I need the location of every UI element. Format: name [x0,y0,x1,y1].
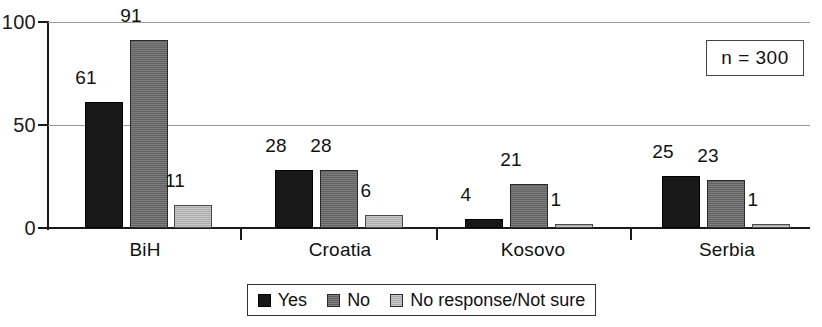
bar-kosovo-yes [465,219,503,228]
y-axis-label-0: 0 [0,218,36,238]
bar-serbia-nores [752,224,790,228]
value-kosovo-yes: 4 [445,185,487,204]
value-bih-yes: 61 [65,68,107,87]
group-tick-2 [436,229,438,240]
legend-item-no[interactable]: No [327,291,370,309]
y-axis-label-50: 50 [0,115,36,135]
x-axis-label-bih: BiH [105,240,185,260]
bar-bih-nores [174,205,212,228]
value-croatia-yes: 28 [255,136,297,155]
value-bih-no: 91 [110,6,152,25]
bar-chart: 100 50 0 61 91 11 28 28 6 4 21 1 25 23 1 [0,0,822,327]
legend-swatch-no-response-icon [390,294,403,307]
group-tick-1 [240,229,242,240]
y-axis-label-100: 100 [0,12,36,32]
legend-label-yes: Yes [278,291,307,309]
sample-size-text: n = 300 [721,47,788,69]
y-tick-100 [38,21,48,23]
legend-label-no-response: No response/Not sure [410,291,585,309]
bar-kosovo-nores [555,224,593,228]
value-serbia-nores: 1 [732,190,774,209]
value-croatia-nores: 6 [345,181,387,200]
value-croatia-no: 28 [300,136,342,155]
sample-size-box: n = 300 [706,40,804,76]
value-bih-nores: 11 [154,171,196,190]
x-axis-label-kosovo: Kosovo [488,240,578,260]
bar-croatia-yes [275,170,313,228]
legend-item-no-response[interactable]: No response/Not sure [390,291,585,309]
legend-item-yes[interactable]: Yes [258,291,307,309]
bar-croatia-nores [365,215,403,228]
value-serbia-no: 23 [687,146,729,165]
value-serbia-yes: 25 [642,142,684,161]
value-kosovo-no: 21 [490,150,532,169]
chart-legend: Yes No No response/Not sure [247,284,596,316]
bar-bih-yes [85,102,123,228]
gridline-100 [48,22,810,23]
bar-bih-no [130,40,168,228]
group-tick-3 [630,229,632,240]
plot-area [48,22,810,228]
x-axis-label-serbia: Serbia [682,240,772,260]
y-tick-50 [38,124,48,126]
bar-serbia-yes [662,176,700,228]
x-axis-label-croatia: Croatia [295,240,385,260]
y-tick-0 [38,227,48,229]
legend-swatch-no-icon [327,294,340,307]
legend-label-no: No [347,291,370,309]
legend-swatch-yes-icon [258,294,271,307]
value-kosovo-nores: 1 [535,190,577,209]
